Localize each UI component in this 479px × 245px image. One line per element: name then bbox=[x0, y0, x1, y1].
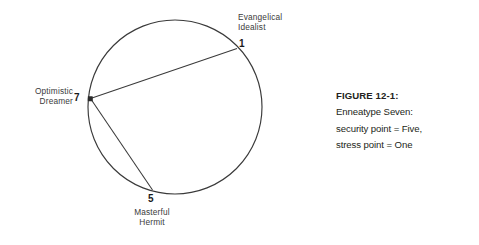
enneagram-circle bbox=[88, 20, 262, 194]
label-optimistic-dreamer: Optimistic Dreamer bbox=[20, 86, 73, 106]
label-evangelical-idealist-line2: Idealist bbox=[238, 22, 266, 32]
label-masterful-hermit: Masterful Hermit bbox=[127, 207, 177, 227]
stress-line-seven-to-one bbox=[91, 49, 238, 99]
figure-caption-title: FIGURE 12-1: bbox=[336, 88, 468, 104]
point-number-one: 1 bbox=[239, 38, 245, 49]
label-evangelical-idealist-line1: Evangelical bbox=[238, 12, 282, 22]
point-number-five: 5 bbox=[148, 193, 154, 204]
label-masterful-hermit-line1: Masterful bbox=[134, 207, 170, 217]
node-marker-seven bbox=[88, 96, 93, 101]
enneagram-figure: Optimistic Dreamer 7 Evangelical Idealis… bbox=[0, 0, 479, 245]
label-masterful-hermit-line2: Hermit bbox=[139, 217, 164, 227]
figure-caption: FIGURE 12-1: Enneatype Seven: security p… bbox=[336, 88, 468, 153]
figure-caption-line-1: Enneatype Seven: bbox=[336, 104, 468, 120]
figure-caption-line-3: stress point = One bbox=[336, 137, 468, 153]
label-evangelical-idealist: Evangelical Idealist bbox=[238, 12, 282, 32]
label-optimistic-dreamer-line2: Dreamer bbox=[40, 96, 73, 106]
figure-caption-line-2: security point = Five, bbox=[336, 121, 468, 137]
point-number-seven: 7 bbox=[74, 92, 80, 103]
label-optimistic-dreamer-line1: Optimistic bbox=[35, 86, 73, 96]
